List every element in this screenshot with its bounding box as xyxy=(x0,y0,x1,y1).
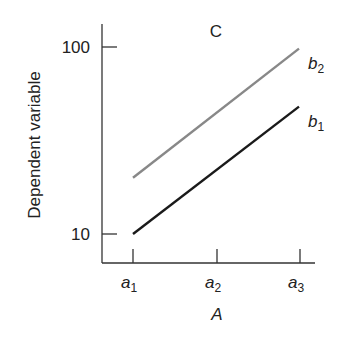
y-tick-label-100: 100 xyxy=(62,38,90,57)
series-line-b2 xyxy=(133,49,299,178)
chart-canvas: 100 10 a1 a2 a3 A Dependent variable C b… xyxy=(0,0,343,343)
chart-title: C xyxy=(210,22,222,41)
x-tick-label-a1: a1 xyxy=(121,273,137,295)
series-line-b1 xyxy=(133,107,299,234)
series-label-b1: b1 xyxy=(308,112,324,134)
x-tick-label-a3: a3 xyxy=(288,273,304,295)
series-label-b2: b2 xyxy=(308,54,324,76)
y-axis-label: Dependent variable xyxy=(25,71,44,218)
x-tick-label-a2: a2 xyxy=(205,273,221,295)
x-axis-label: A xyxy=(210,305,222,324)
y-tick-label-10: 10 xyxy=(71,225,90,244)
